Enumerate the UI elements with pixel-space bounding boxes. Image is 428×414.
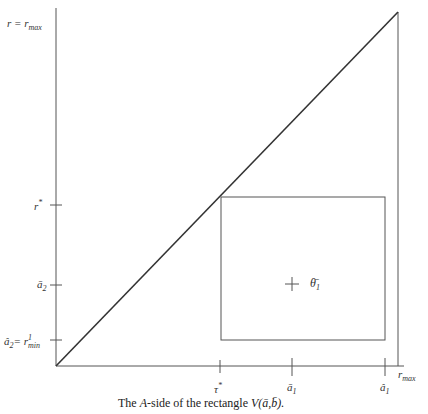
- figure-caption: The A-side of the rectangle V(ā,b̄).: [118, 396, 284, 411]
- x-axis-end-label: rmax: [398, 369, 416, 383]
- y-label-rstar: r*: [34, 199, 42, 212]
- x-label-tau: τ*: [214, 382, 222, 395]
- x-label-a1hat: â1: [380, 382, 390, 396]
- rectangle-V: [221, 197, 385, 340]
- diagram-canvas: [0, 0, 428, 414]
- y-label-a2bar: ā2: [37, 279, 47, 293]
- x-label-a1bar: ā1: [287, 382, 297, 396]
- y-axis-top-label: r = rmax: [7, 18, 42, 32]
- y-label-a2hat: â2= r1min: [4, 334, 40, 350]
- diagonal-line: [56, 12, 398, 366]
- point-label-theta: θ̄1: [310, 277, 320, 292]
